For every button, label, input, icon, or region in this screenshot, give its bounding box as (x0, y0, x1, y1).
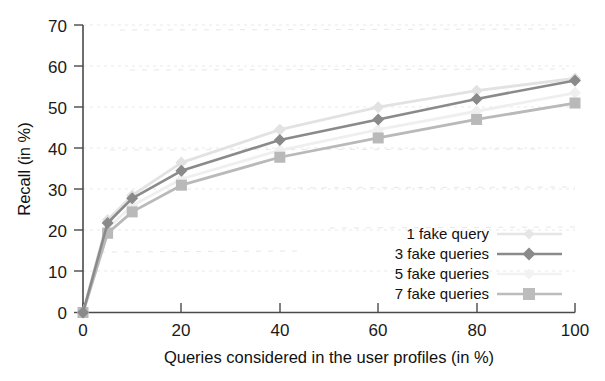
x-tick-label: 60 (369, 321, 388, 340)
x-tick-label: 100 (561, 321, 589, 340)
y-tick-label: 60 (48, 58, 67, 77)
chart-background (0, 0, 605, 381)
data-point-marker (127, 206, 138, 217)
x-axis-title: Queries considered in the user profiles … (164, 348, 494, 366)
figure-container: 70 60 50 40 30 20 10 0 Recall (in %) 0 2… (0, 0, 605, 381)
y-tick-label: 10 (48, 263, 67, 282)
data-point-marker (570, 98, 581, 109)
legend-label-3: 5 fake queries (395, 265, 489, 282)
y-tick-label: 50 (48, 99, 67, 118)
y-tick-label: 40 (48, 140, 67, 159)
y-tick-label: 20 (48, 222, 67, 241)
x-tick-label: 40 (271, 321, 290, 340)
data-point-marker (373, 132, 384, 143)
x-tick-label: 20 (172, 321, 191, 340)
y-tick-label: 0 (58, 304, 67, 323)
legend-label-4: 7 fake queries (395, 285, 489, 302)
recall-line-chart: 70 60 50 40 30 20 10 0 Recall (in %) 0 2… (0, 0, 605, 381)
data-point-marker (176, 180, 187, 191)
legend-label-1: 1 fake query (406, 225, 489, 242)
data-point-marker (274, 152, 285, 163)
y-tick-label: 30 (48, 181, 67, 200)
y-tick-label: 70 (48, 17, 67, 36)
legend-label-2: 3 fake queries (395, 245, 489, 262)
x-tick-label: 80 (468, 321, 487, 340)
y-axis-title: Recall (in %) (15, 122, 33, 216)
data-point-marker (471, 114, 482, 125)
x-tick-label: 0 (78, 321, 87, 340)
